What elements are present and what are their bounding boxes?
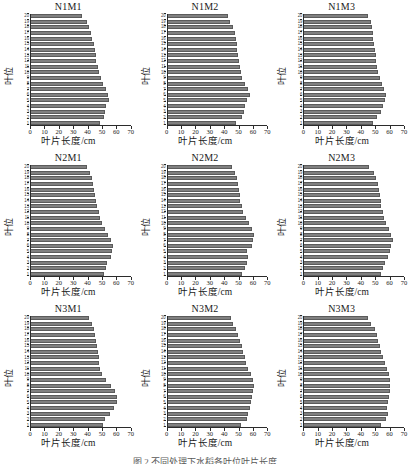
x-tick-label: 40 (358, 279, 365, 287)
bar (304, 238, 392, 242)
bar (168, 176, 238, 180)
x-tick-label: 10 (178, 128, 185, 136)
bar-row (304, 59, 404, 63)
y-tick-mark (164, 54, 166, 55)
bar (304, 361, 384, 365)
y-tick-mark (300, 379, 302, 380)
bar-row (168, 204, 268, 208)
bar (31, 31, 91, 35)
y-tick-mark (300, 106, 302, 107)
x-tick-label: 50 (372, 430, 379, 438)
chart-panel-n3m2: N3M2叶位1234567891011121314151617181920010… (137, 302, 274, 453)
bar-series (31, 165, 131, 276)
bar (31, 406, 114, 410)
y-tick-label: 19 (293, 321, 302, 326)
x-tick-label: 40 (221, 128, 228, 136)
y-tick-mark (164, 397, 166, 398)
bar (168, 121, 236, 125)
bar-row (31, 233, 131, 237)
bar-row (168, 221, 268, 225)
bar-row (168, 244, 268, 248)
y-tick-mark (27, 344, 29, 345)
y-tick-mark (300, 205, 302, 206)
bar-row (31, 110, 131, 114)
y-tick-mark (300, 362, 302, 363)
bar (304, 272, 381, 276)
x-tick-label: 0 (28, 430, 31, 438)
x-tick-label: 30 (207, 430, 214, 438)
y-tick-mark (300, 176, 302, 177)
y-tick-mark (27, 356, 29, 357)
y-tick-mark (164, 77, 166, 78)
x-tick-label: 10 (314, 279, 321, 287)
y-tick-mark (300, 263, 302, 264)
bar (168, 361, 246, 365)
bar (31, 423, 103, 427)
bar (168, 199, 241, 203)
bar (304, 221, 386, 225)
bar-row (304, 233, 404, 237)
y-tick-mark (27, 240, 29, 241)
y-axis-title: 叶位 (2, 369, 15, 387)
x-tick-label: 70 (264, 128, 271, 136)
y-tick-mark (164, 66, 166, 67)
y-tick-mark (300, 170, 302, 171)
y-tick-label: 20 (157, 165, 166, 170)
bar-row (168, 216, 268, 220)
y-tick-mark (27, 321, 29, 322)
bar (168, 204, 242, 208)
y-tick-mark (164, 187, 166, 188)
x-tick-label: 40 (84, 430, 91, 438)
bar (304, 233, 391, 237)
x-tick-label: 40 (221, 279, 228, 287)
y-tick-mark (164, 106, 166, 107)
bar-row (168, 76, 268, 80)
y-axis-ticks (302, 14, 303, 126)
y-tick-mark (27, 362, 29, 363)
y-tick-mark (27, 414, 29, 415)
bar (31, 322, 92, 326)
x-tick-label: 20 (329, 279, 336, 287)
y-tick-label: 20 (293, 316, 302, 321)
x-tick-label: 60 (250, 430, 257, 438)
bar (304, 367, 387, 371)
y-tick-mark (27, 257, 29, 258)
y-tick-mark (300, 193, 302, 194)
y-tick-mark (300, 252, 302, 253)
bar-row (304, 316, 404, 320)
x-axis-title: 叶片长度/cm (0, 136, 137, 147)
x-tick-label: 70 (401, 128, 408, 136)
bar-row (168, 384, 268, 388)
bar-row (31, 82, 131, 86)
bar-series (304, 165, 404, 276)
bar (304, 344, 379, 348)
y-tick-mark (27, 182, 29, 183)
bar-row (304, 244, 404, 248)
bar-row (304, 93, 404, 97)
bar (31, 339, 96, 343)
bar-series (168, 165, 268, 276)
bar-row (304, 110, 404, 114)
bar-row (304, 204, 404, 208)
y-tick-mark (164, 36, 166, 37)
y-tick-mark (27, 199, 29, 200)
bar-row (304, 199, 404, 203)
y-tick-label: 20 (20, 316, 29, 321)
bar (304, 48, 374, 52)
bar-row (168, 53, 268, 57)
bar (304, 227, 389, 231)
y-tick-mark (300, 403, 302, 404)
bar (31, 193, 95, 197)
bar (168, 165, 232, 169)
x-tick-label: 0 (302, 128, 305, 136)
bar-row (31, 104, 131, 108)
bar (31, 42, 94, 46)
y-tick-mark (300, 187, 302, 188)
y-tick-label: 20 (20, 165, 29, 170)
x-tick-label: 10 (178, 430, 185, 438)
bar (304, 165, 369, 169)
bar-row (31, 216, 131, 220)
y-tick-mark (164, 89, 166, 90)
bar (31, 378, 106, 382)
y-tick-mark (27, 101, 29, 102)
